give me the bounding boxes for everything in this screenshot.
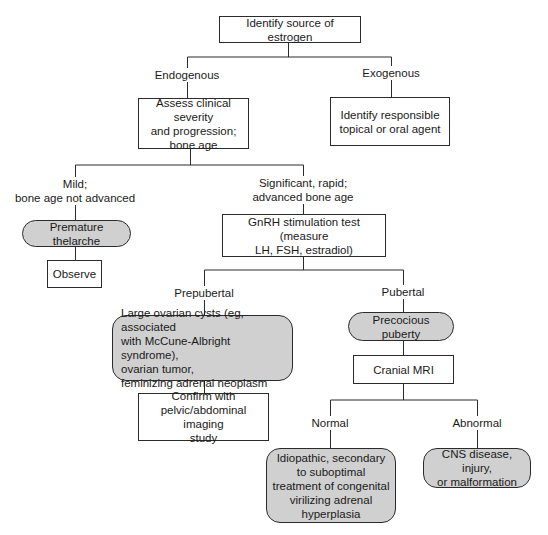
node-observe: Observe [47,260,102,288]
node-ovarian-cysts: Large ovarian cysts (eg, associated with… [112,315,293,381]
edge-label-pubertal: Pubertal [380,285,427,299]
estrogen-source-flowchart: Identify source of estrogen Endogenous E… [0,0,548,535]
node-precocious-puberty: Precocious puberty [348,312,454,341]
edge-label-normal: Normal [309,416,350,430]
node-assess-severity: Assess clinical severity and progression… [138,98,249,149]
edge-label-prepubertal: Prepubertal [172,286,235,300]
node-idiopathic: Idiopathic, secondary to suboptimal trea… [266,448,396,523]
edge-label-mild: Mild; bone age not advanced [13,177,137,205]
node-gnrh-test: GnRH stimulation test (measure LH, FSH, … [222,214,386,257]
node-identify-agent: Identify responsible topical or oral age… [330,97,450,146]
node-identify-source: Identify source of estrogen [219,16,361,43]
edge-label-significant: Significant, rapid; advanced bone age [250,176,355,204]
edge-label-abnormal: Abnormal [450,416,503,430]
edge-label-endogenous: Endogenous [153,68,222,82]
node-cranial-mri: Cranial MRI [353,355,454,384]
node-premature-thelarche: Premature thelarche [22,220,131,247]
node-confirm-imaging: Confirm with pelvic/abdominal imaging st… [138,393,269,441]
edge-label-exogenous: Exogenous [360,66,422,80]
node-cns-disease: CNS disease, injury, or malformation [423,448,531,488]
